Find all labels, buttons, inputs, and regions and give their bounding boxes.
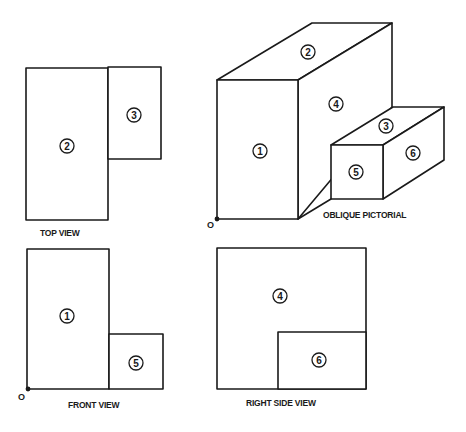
right-side-view-label: RIGHT SIDE VIEW bbox=[246, 398, 317, 408]
front-view: O 1 5 FRONT VIEW bbox=[18, 249, 163, 410]
face-number: 5 bbox=[353, 167, 359, 178]
top-view: 2 3 TOP VIEW bbox=[26, 67, 161, 238]
top-view-label: TOP VIEW bbox=[40, 228, 81, 238]
face-number: 3 bbox=[131, 110, 137, 121]
face-tag-2: 2 bbox=[301, 45, 315, 59]
oblique-pictorial-label: OBLIQUE PICTORIAL bbox=[323, 210, 406, 220]
oblique-pictorial: O 1 2 3 4 5 6 OBLIQUE PICTORIAL bbox=[207, 23, 444, 230]
face-number: 3 bbox=[383, 121, 389, 132]
right-side-view: 4 6 RIGHT SIDE VIEW bbox=[217, 248, 366, 408]
origin-point bbox=[26, 387, 31, 392]
face-tag-4: 4 bbox=[273, 289, 287, 303]
face-number: 2 bbox=[305, 47, 311, 58]
face-tag-6: 6 bbox=[312, 353, 326, 367]
face-number: 5 bbox=[133, 358, 139, 369]
face-tag-1: 1 bbox=[60, 309, 74, 323]
face-number: 2 bbox=[64, 141, 70, 152]
origin-label: O bbox=[207, 220, 214, 230]
face-number: 6 bbox=[316, 355, 322, 366]
face-number: 1 bbox=[64, 311, 70, 322]
face-tag-5: 5 bbox=[349, 165, 363, 179]
origin-point bbox=[215, 217, 220, 222]
face-tag-4: 4 bbox=[329, 97, 343, 111]
face-tag-3: 3 bbox=[127, 108, 141, 122]
face-number: 1 bbox=[257, 146, 263, 157]
face-tag-6: 6 bbox=[406, 146, 420, 160]
projection-diagram: 2 3 TOP VIEW O 1 2 bbox=[0, 0, 466, 432]
face-number: 6 bbox=[410, 148, 416, 159]
face-number: 4 bbox=[277, 291, 283, 302]
face-tag-5: 5 bbox=[129, 356, 143, 370]
face-number: 4 bbox=[333, 99, 339, 110]
front-view-label: FRONT VIEW bbox=[68, 400, 121, 410]
face-tag-2: 2 bbox=[60, 139, 74, 153]
origin-label: O bbox=[18, 392, 25, 402]
face-tag-3: 3 bbox=[379, 119, 393, 133]
face-tag-1: 1 bbox=[253, 144, 267, 158]
